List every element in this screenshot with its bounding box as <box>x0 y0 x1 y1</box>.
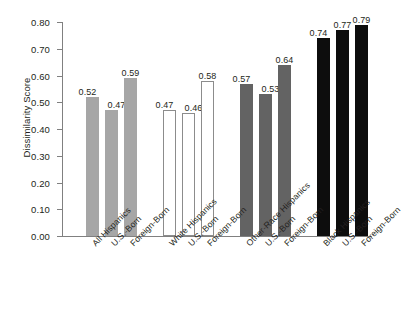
bar-value-label: 0.46 <box>185 103 203 113</box>
bar-value-label: 0.58 <box>199 71 217 81</box>
y-axis-tick: 0.40 <box>57 129 62 130</box>
bar-value-label: 0.74 <box>310 28 328 38</box>
bar-value-label: 0.64 <box>276 55 294 65</box>
y-axis-tick-label: 0.40 <box>31 124 50 135</box>
y-axis-tick-label: 0.50 <box>31 97 50 108</box>
y-axis-line <box>62 22 63 236</box>
y-axis-tick: 0.10 <box>57 209 62 210</box>
y-axis-tick-label: 0.60 <box>31 70 50 81</box>
bar-value-label: 0.59 <box>122 68 140 78</box>
y-axis-tick: 0.80 <box>57 22 62 23</box>
y-axis-tick-label: 0.70 <box>31 43 50 54</box>
y-axis-tick-label: 0.30 <box>31 150 50 161</box>
bar-value-label: 0.77 <box>334 20 352 30</box>
y-axis-tick: 0.30 <box>57 156 62 157</box>
y-axis-title: Dissimilarity Score <box>21 48 32 188</box>
y-axis-tick: 0.20 <box>57 183 62 184</box>
y-axis-tick-label: 0.00 <box>31 231 50 242</box>
y-axis-tick: 0.00 <box>57 236 62 237</box>
y-axis-tick: 0.60 <box>57 76 62 77</box>
bar-value-label: 0.47 <box>156 100 174 110</box>
bar-value-label: 0.47 <box>108 100 126 110</box>
y-axis-tick-label: 0.20 <box>31 177 50 188</box>
bar-value-label: 0.57 <box>233 74 251 84</box>
bar-value-label: 0.52 <box>79 87 97 97</box>
bar: 0.52 <box>86 97 99 236</box>
y-axis-tick-label: 0.80 <box>31 17 50 28</box>
y-axis-tick: 0.50 <box>57 102 62 103</box>
y-axis-tick: 0.70 <box>57 49 62 50</box>
bar-value-label: 0.79 <box>353 15 371 25</box>
bar-value-label: 0.53 <box>262 84 280 94</box>
y-axis-tick-label: 0.10 <box>31 204 50 215</box>
bar: 0.77 <box>336 30 349 236</box>
